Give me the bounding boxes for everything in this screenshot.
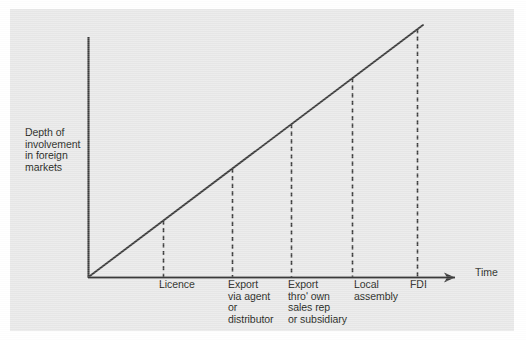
x-tick-label-local-assembly: Local assembly xyxy=(354,279,398,302)
y-axis-label: Depth of involvement in foreign markets xyxy=(25,127,97,173)
figure-canvas: Depth of involvement in foreign markets … xyxy=(0,0,526,341)
trend-line xyxy=(89,25,424,277)
x-tick-label-licence: Licence xyxy=(159,279,195,291)
x-tick-label-export-via-agent: Export via agent or distributor xyxy=(228,279,274,325)
x-tick-label-fdi: FDI xyxy=(410,279,427,291)
x-axis-label: Time xyxy=(475,267,498,279)
x-tick-label-export-own-sales-rep: Export thro' own sales rep or subsidiary xyxy=(288,279,347,325)
